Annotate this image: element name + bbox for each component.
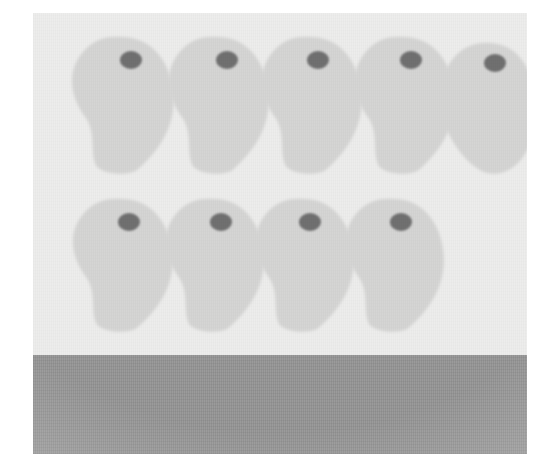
base-band [33,355,527,454]
nucleus-dot [484,54,506,72]
nucleus-dot [120,51,142,69]
nucleus-dot [210,213,232,231]
figure-caption [0,0,1,1]
specimen-group [72,37,527,332]
nucleus-dot [390,213,412,231]
specimen-body [440,43,527,174]
nucleus-dot [307,51,329,69]
nucleus-dot [299,213,321,231]
base-band-texture [33,355,527,454]
figure-page [0,0,547,469]
nucleus-dot [118,213,140,231]
nucleus-dot [400,51,422,69]
figure-plate [33,13,527,454]
nucleus-dot [216,51,238,69]
